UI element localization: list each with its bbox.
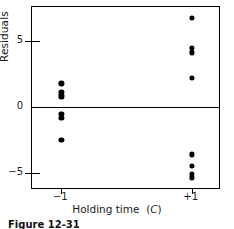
y-tick-label: 0 [0, 101, 23, 111]
figure-caption: Figure 12-31 [8, 219, 80, 229]
data-point [189, 164, 194, 169]
data-point [59, 81, 64, 86]
y-tick-mark [25, 173, 32, 174]
y-tick-label: 5 [0, 35, 23, 45]
y-tick-mark [25, 41, 32, 42]
x-axis-title-text: Holding time [72, 203, 139, 215]
data-point [59, 137, 64, 142]
x-tick-label: −1 [40, 191, 80, 202]
y-tick-label: −5 [0, 167, 23, 177]
data-point [189, 152, 194, 157]
data-point [59, 116, 64, 121]
data-point [189, 15, 194, 20]
data-point [189, 50, 194, 55]
plot-area [31, 6, 220, 189]
y-tick-mark-inner [32, 173, 40, 174]
figure-container: Residuals −505 −1+1 Holding time (C) Fig… [0, 0, 234, 229]
x-axis-title-variable: C [150, 203, 157, 215]
data-point [189, 175, 194, 180]
x-axis-title-paren-close: ) [158, 203, 162, 215]
data-point [59, 95, 64, 100]
zero-reference-line [32, 107, 219, 108]
data-point [189, 75, 194, 80]
x-tick-label: +1 [171, 191, 211, 202]
y-tick-mark-inner [32, 41, 40, 42]
x-axis-title: Holding time (C) [0, 203, 234, 215]
